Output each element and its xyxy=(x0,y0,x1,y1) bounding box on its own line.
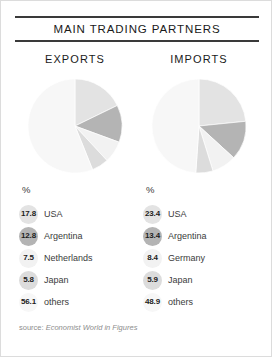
source-line: source: Economist World in Figures xyxy=(19,323,137,332)
exports-legend-rows: 17.8USA12.8Argentina7.5Netherlands5.8Jap… xyxy=(19,203,139,313)
imports-pie-chart xyxy=(139,77,259,177)
legend-bullet-netherlands: 7.5 xyxy=(19,249,38,268)
legend-bullet-germany: 8.4 xyxy=(143,249,162,268)
exports-pie-svg xyxy=(26,77,124,175)
legend-bullet-japan: 5.9 xyxy=(143,271,162,290)
legend-row: 17.8USA xyxy=(19,203,139,225)
legend-label-japan: Japan xyxy=(44,275,69,285)
trading-partners-card: MAIN TRADING PARTNERS EXPORTS IMPORTS % … xyxy=(0,0,272,357)
legend-bullet-argentina: 13.4 xyxy=(143,227,162,246)
imports-percent-symbol: % xyxy=(146,184,263,196)
pie-slice-usa xyxy=(199,79,246,126)
source-prefix: source: xyxy=(19,323,46,332)
exports-pie-chart xyxy=(15,77,135,177)
legend-bullet-argentina: 12.8 xyxy=(19,227,38,246)
legend-label-others: others xyxy=(44,297,69,307)
legend-label-others: others xyxy=(168,297,193,307)
exports-legend: % 17.8USA12.8Argentina7.5Netherlands5.8J… xyxy=(19,184,139,313)
imports-legend-rows: 23.4USA13.4Argentina8.4Germany5.9Japan48… xyxy=(143,203,263,313)
legend-row: 7.5Netherlands xyxy=(19,247,139,269)
legend-row: 23.4USA xyxy=(143,203,263,225)
legend-label-usa: USA xyxy=(168,209,187,219)
legend-bullet-usa: 17.8 xyxy=(19,205,38,224)
exports-percent-symbol: % xyxy=(22,184,139,196)
title-rule-bottom xyxy=(15,40,259,42)
imports-pie-svg xyxy=(150,77,248,175)
title-block: MAIN TRADING PARTNERS xyxy=(15,16,259,42)
legend-row: 13.4Argentina xyxy=(143,225,263,247)
legend-bullet-japan: 5.8 xyxy=(19,271,38,290)
legend-label-argentina: Argentina xyxy=(168,231,207,241)
legend-row: 48.9others xyxy=(143,291,263,313)
legend-label-netherlands: Netherlands xyxy=(44,253,93,263)
page-title: MAIN TRADING PARTNERS xyxy=(15,18,259,40)
legend-label-usa: USA xyxy=(44,209,63,219)
legend-label-japan: Japan xyxy=(168,275,193,285)
legend-label-germany: Germany xyxy=(168,253,205,263)
legend-bullet-others: 48.9 xyxy=(143,293,162,312)
legend-row: 5.8Japan xyxy=(19,269,139,291)
source-title: Economist World in Figures xyxy=(46,323,138,332)
legend-row: 56.1others xyxy=(19,291,139,313)
legend-label-argentina: Argentina xyxy=(44,231,83,241)
pie-slice-others xyxy=(152,79,199,173)
imports-legend: % 23.4USA13.4Argentina8.4Germany5.9Japan… xyxy=(143,184,263,313)
imports-heading: IMPORTS xyxy=(139,53,259,65)
exports-heading: EXPORTS xyxy=(15,53,135,65)
legend-bullet-usa: 23.4 xyxy=(143,205,162,224)
legend-bullet-others: 56.1 xyxy=(19,293,38,312)
legend-row: 12.8Argentina xyxy=(19,225,139,247)
legend-row: 8.4Germany xyxy=(143,247,263,269)
legend-row: 5.9Japan xyxy=(143,269,263,291)
